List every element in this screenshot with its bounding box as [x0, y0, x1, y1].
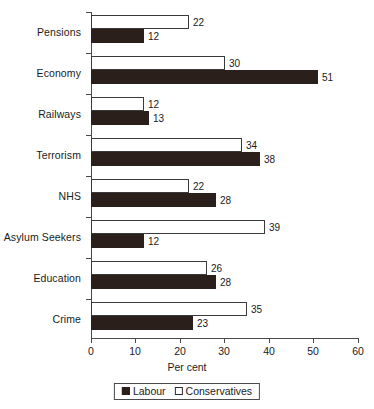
bar-value-labour: 12 [148, 236, 159, 247]
category-label: Pensions [37, 26, 81, 38]
bar-value-labour: 51 [322, 72, 333, 83]
bar-group: Pensions 22 12 [91, 12, 358, 52]
bar-labour [91, 234, 144, 248]
x-axis-title: Per cent [0, 361, 374, 373]
bar-value-conservatives: 22 [193, 181, 204, 192]
category-label: Crime [53, 313, 82, 325]
category-label: Railways [38, 108, 81, 120]
bar-conservatives [91, 261, 207, 275]
filled-square-icon [122, 387, 130, 395]
bar-labour [91, 316, 193, 330]
category-label: Terrorism [36, 149, 81, 161]
x-axis-tick-label: 40 [263, 345, 275, 357]
bar-labour [91, 193, 216, 207]
y-axis-tick [86, 217, 91, 218]
bar-value-labour: 12 [148, 31, 159, 42]
y-axis-tick [86, 135, 91, 136]
bar-group: Railways 12 13 [91, 94, 358, 134]
category-label: Economy [37, 67, 81, 79]
bar-chart: Pensions 22 12 Economy 30 51 [0, 0, 374, 409]
bar-group: Terrorism 34 38 [91, 135, 358, 175]
bar-labour [91, 111, 149, 125]
legend-label-conservatives: Conservatives [186, 386, 253, 397]
bar-labour [91, 275, 216, 289]
x-axis-tick-label: 10 [129, 345, 141, 357]
bar-conservatives [91, 302, 247, 316]
bar-conservatives [91, 179, 189, 193]
bar-value-conservatives: 12 [148, 99, 159, 110]
bar-group: Crime 35 23 [91, 299, 358, 339]
bar-conservatives [91, 97, 144, 111]
x-axis-tick-label: 20 [174, 345, 186, 357]
y-axis-tick [86, 94, 91, 95]
bar-conservatives [91, 56, 225, 70]
bar-value-conservatives: 39 [269, 222, 280, 233]
bar-value-conservatives: 26 [211, 263, 222, 274]
x-axis-tick [180, 338, 181, 343]
y-axis-tick [86, 299, 91, 300]
x-axis-tick [91, 338, 92, 343]
x-axis-tick [269, 338, 270, 343]
bar-value-labour: 38 [264, 154, 275, 165]
legend-item-labour: Labour [122, 386, 166, 397]
bar-conservatives [91, 15, 189, 29]
bar-value-conservatives: 34 [246, 140, 257, 151]
category-label: NHS [59, 190, 81, 202]
y-axis-tick [86, 176, 91, 177]
bar-value-conservatives: 35 [251, 304, 262, 315]
y-axis-tick [86, 258, 91, 259]
bar-value-labour: 28 [220, 195, 231, 206]
bar-group: Education 26 28 [91, 258, 358, 298]
y-axis-tick [86, 53, 91, 54]
bar-value-labour: 13 [153, 113, 164, 124]
bar-group: Asylum Seekers 39 12 [91, 217, 358, 257]
plot-area: Pensions 22 12 Economy 30 51 [91, 12, 358, 337]
legend-label-labour: Labour [133, 386, 166, 397]
bar-group: Economy 30 51 [91, 53, 358, 93]
x-axis-tick [135, 338, 136, 343]
category-label: Education [33, 272, 81, 284]
bar-labour [91, 152, 260, 166]
x-axis-tick-label: 30 [218, 345, 230, 357]
x-axis-tick [224, 338, 225, 343]
bar-labour [91, 29, 144, 43]
bar-labour [91, 70, 318, 84]
bar-conservatives [91, 138, 242, 152]
x-axis-tick-label: 60 [352, 345, 364, 357]
bar-value-labour: 23 [197, 318, 208, 329]
bar-value-conservatives: 30 [229, 58, 240, 69]
x-axis-tick-label: 0 [88, 345, 94, 357]
bar-group: NHS 22 28 [91, 176, 358, 216]
bar-conservatives [91, 220, 265, 234]
open-square-icon [175, 387, 183, 395]
y-axis-tick [86, 12, 91, 13]
x-axis-tick [358, 338, 359, 343]
x-axis-tick [313, 338, 314, 343]
bar-value-conservatives: 22 [193, 17, 204, 28]
x-axis-tick-label: 50 [307, 345, 319, 357]
legend-item-conservatives: Conservatives [175, 386, 253, 397]
chart-legend: Labour Conservatives [114, 383, 260, 400]
bar-value-labour: 28 [220, 277, 231, 288]
category-label: Asylum Seekers [4, 231, 81, 243]
